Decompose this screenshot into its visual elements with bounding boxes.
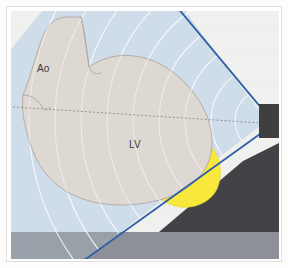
echocardiogram-canvas: Ao LV bbox=[11, 11, 279, 259]
echocardiogram-svg bbox=[11, 11, 279, 259]
figure-root: Ao LV bbox=[0, 0, 288, 268]
transducer-block bbox=[259, 104, 279, 138]
figure-frame: Ao LV bbox=[6, 6, 282, 262]
